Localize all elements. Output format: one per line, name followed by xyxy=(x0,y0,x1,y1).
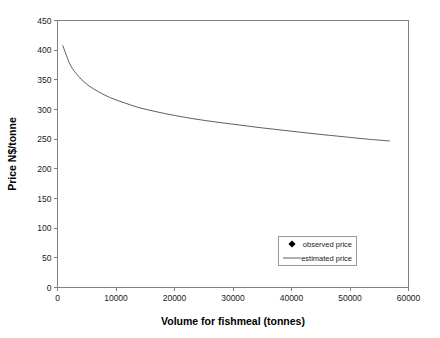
y-tick-label: 100 xyxy=(37,223,51,233)
y-tick-label: 200 xyxy=(37,164,51,174)
y-tick-label: 450 xyxy=(37,16,51,26)
legend-label-observed: observed price xyxy=(303,240,352,249)
x-tick-label: 30000 xyxy=(221,293,245,303)
y-tick-label: 400 xyxy=(37,45,51,55)
x-axis-title: Volume for fishmeal (tonnes) xyxy=(161,315,305,327)
x-tick-label: 40000 xyxy=(280,293,304,303)
x-tick-label: 0 xyxy=(55,293,60,303)
y-tick-label: 250 xyxy=(37,134,51,144)
y-tick-label: 150 xyxy=(37,194,51,204)
y-tick-label: 300 xyxy=(37,105,51,115)
y-tick-label: 0 xyxy=(47,283,52,293)
x-tick-label: 60000 xyxy=(397,293,421,303)
x-tick-label: 50000 xyxy=(338,293,362,303)
scatter-chart: 050100150200250300350400450 010000200003… xyxy=(0,0,440,338)
chart-container: 050100150200250300350400450 010000200003… xyxy=(0,0,440,338)
y-axis-title: Price N$/tonne xyxy=(6,117,18,191)
x-tick-label: 10000 xyxy=(104,293,128,303)
y-tick-label: 350 xyxy=(37,75,51,85)
x-tick-label: 20000 xyxy=(163,293,187,303)
chart-legend: observed price estimated price xyxy=(278,236,356,265)
legend-label-estimated: estimated price xyxy=(301,254,352,263)
y-tick-label: 50 xyxy=(42,253,52,263)
